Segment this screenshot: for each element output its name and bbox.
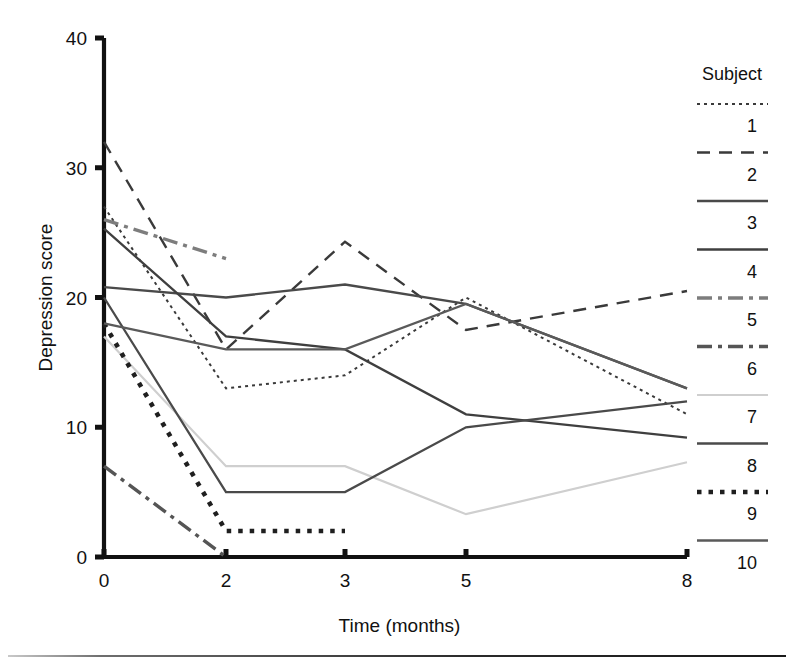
line-chart: 01020304002358Time (months)Depression sc… [0, 0, 794, 666]
legend-label-subject-10: 10 [737, 553, 757, 573]
page-divider-rule [8, 655, 786, 657]
legend-label-subject-9: 9 [747, 504, 757, 524]
y-tick-label: 30 [66, 158, 87, 179]
legend-label-subject-3: 3 [747, 213, 757, 233]
x-tick-label: 0 [99, 570, 110, 591]
x-tick-label: 5 [461, 570, 472, 591]
y-axis-title: Depression score [35, 224, 56, 372]
y-tick-label: 40 [66, 28, 87, 49]
y-tick-label: 20 [66, 288, 87, 309]
legend-title: Subject [702, 64, 762, 84]
x-tick-label: 8 [682, 570, 693, 591]
x-tick-label: 3 [340, 570, 351, 591]
y-tick-label: 0 [76, 547, 87, 568]
x-tick-label: 2 [221, 570, 232, 591]
legend-label-subject-4: 4 [747, 262, 757, 282]
legend-label-subject-6: 6 [747, 359, 757, 379]
legend-label-subject-5: 5 [747, 310, 757, 330]
x-axis-title: Time (months) [339, 615, 461, 636]
figure-container: 01020304002358Time (months)Depression sc… [0, 0, 794, 666]
legend-label-subject-2: 2 [747, 165, 757, 185]
legend-label-subject-7: 7 [747, 407, 757, 427]
legend-label-subject-1: 1 [747, 116, 757, 136]
chart-background [0, 0, 794, 666]
y-tick-label: 10 [66, 417, 87, 438]
legend-label-subject-8: 8 [747, 456, 757, 476]
